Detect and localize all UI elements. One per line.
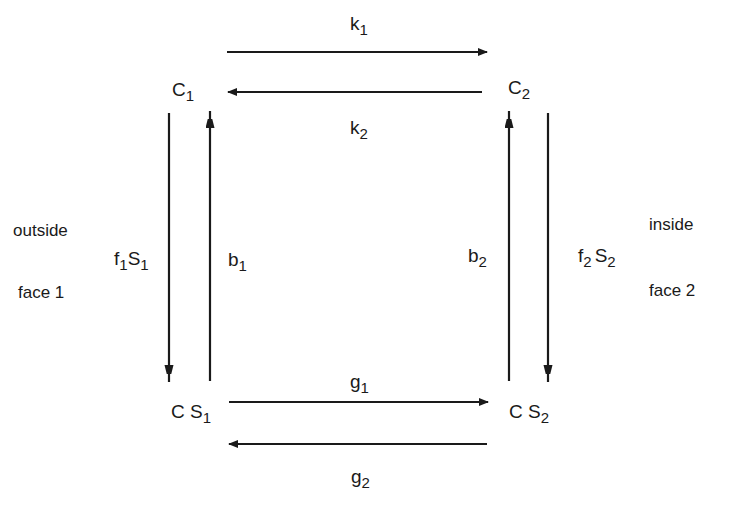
rate-g2-sub: 2 [362,474,370,491]
rate-k1-main: k [350,13,360,34]
rate-f2s2-fsub: 2 [583,253,591,270]
rate-f1s1-ssub: 1 [140,256,148,273]
rate-f1s1-fsub: 1 [119,256,127,273]
node-c1-main: C [172,79,186,100]
node-c2-sub: 2 [522,85,530,102]
arrows-layer [0,0,730,506]
rate-b2-sub: 2 [479,253,487,270]
rate-g2: g2 [351,467,370,486]
rate-b2: b2 [468,246,487,265]
rate-f2s2-s: S [595,245,608,266]
rate-k1-sub: 1 [360,21,368,38]
node-cs2-main: C S [509,401,541,422]
node-c1: C1 [172,80,194,99]
label-face-2: face 2 [649,282,695,299]
node-cs1-sub: 1 [203,409,211,426]
rate-g2-main: g [351,466,362,487]
node-cs2: C S2 [509,402,549,421]
rate-k2-sub: 2 [360,125,368,142]
node-c2-main: C [508,77,522,98]
rate-f1s1: f1S1 [114,249,149,268]
rate-g1: g1 [350,372,369,391]
node-c2: C2 [508,78,530,97]
rate-b1: b1 [228,250,247,269]
rate-f1s1-s: S [128,248,141,269]
rate-f2s2: f2S2 [578,246,616,265]
label-inside: inside [649,216,693,233]
rate-k2-main: k [350,117,360,138]
label-face-1: face 1 [18,284,64,301]
rate-b1-main: b [228,249,239,270]
rate-g1-sub: 1 [361,379,369,396]
rate-g1-main: g [350,371,361,392]
rate-k1: k1 [350,14,368,33]
rate-f2s2-ssub: 2 [607,253,615,270]
node-c1-sub: 1 [186,87,194,104]
node-cs1-main: C S [171,401,203,422]
label-outside: outside [13,222,68,239]
rate-b2-main: b [468,245,479,266]
node-cs2-sub: 2 [541,409,549,426]
rate-k2: k2 [350,118,368,137]
node-cs1: C S1 [171,402,211,421]
rate-b1-sub: 1 [239,257,247,274]
